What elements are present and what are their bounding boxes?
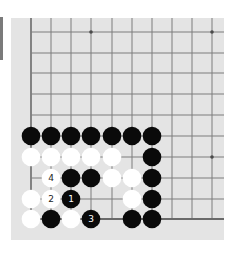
black-stone[interactable] (103, 127, 122, 146)
black-stone-icon (123, 127, 142, 146)
black-stone-icon (62, 127, 81, 146)
white-stone[interactable] (22, 210, 41, 229)
black-stone-icon (143, 190, 162, 209)
black-stone-icon (143, 210, 162, 229)
black-stone[interactable] (22, 127, 41, 146)
go-board-grid[interactable]: 4213 (11, 18, 224, 240)
white-stone[interactable] (82, 148, 101, 167)
white-stone-icon (22, 210, 41, 229)
star-point-icon (89, 30, 93, 34)
black-stone-icon (143, 169, 162, 188)
white-stone-icon (103, 148, 122, 167)
white-stone-icon (42, 148, 61, 167)
black-stone[interactable] (143, 127, 162, 146)
white-stone[interactable] (123, 190, 142, 209)
star-point-icon (210, 155, 214, 159)
black-stone[interactable] (82, 127, 101, 146)
white-stone[interactable]: 2 (42, 190, 61, 209)
black-stone-icon (82, 169, 101, 188)
white-stone-icon (22, 190, 41, 209)
black-stone[interactable] (42, 210, 61, 229)
black-stone[interactable] (62, 169, 81, 188)
black-stone[interactable]: 3 (82, 210, 101, 229)
grid-lines (31, 18, 224, 219)
black-stone-icon (143, 127, 162, 146)
black-stone[interactable]: 1 (62, 190, 81, 209)
white-stone-icon (123, 190, 142, 209)
side-bar-marker (0, 17, 3, 60)
star-point-icon (210, 30, 214, 34)
black-stone-icon (22, 127, 41, 146)
white-stone[interactable] (42, 148, 61, 167)
black-stone[interactable] (42, 127, 61, 146)
white-stone-icon (62, 148, 81, 167)
black-stone-icon (42, 127, 61, 146)
black-stone[interactable] (123, 127, 142, 146)
move-number-label: 4 (48, 173, 54, 183)
white-stone[interactable] (123, 169, 142, 188)
black-stone[interactable] (143, 148, 162, 167)
white-stone[interactable] (103, 148, 122, 167)
white-stone[interactable] (62, 210, 81, 229)
white-stone-icon (123, 169, 142, 188)
black-stone[interactable] (143, 169, 162, 188)
white-stone[interactable] (22, 148, 41, 167)
go-board[interactable]: 4213 (11, 18, 224, 240)
move-number-label: 3 (88, 214, 94, 224)
white-stone[interactable] (103, 169, 122, 188)
stones-layer: 4213 (22, 127, 162, 229)
black-stone-icon (82, 127, 101, 146)
black-stone[interactable] (82, 169, 101, 188)
black-stone[interactable] (143, 210, 162, 229)
black-stone-icon (143, 148, 162, 167)
move-number-label: 1 (68, 194, 74, 204)
white-stone[interactable] (62, 148, 81, 167)
white-stone[interactable] (22, 190, 41, 209)
black-stone-icon (62, 169, 81, 188)
black-stone[interactable] (123, 210, 142, 229)
move-number-label: 2 (48, 194, 54, 204)
black-stone-icon (103, 127, 122, 146)
white-stone[interactable]: 4 (42, 169, 61, 188)
white-stone-icon (82, 148, 101, 167)
black-stone[interactable] (62, 127, 81, 146)
black-stone-icon (123, 210, 142, 229)
white-stone-icon (22, 148, 41, 167)
white-stone-icon (62, 210, 81, 229)
white-stone-icon (103, 169, 122, 188)
black-stone[interactable] (143, 190, 162, 209)
black-stone-icon (42, 210, 61, 229)
